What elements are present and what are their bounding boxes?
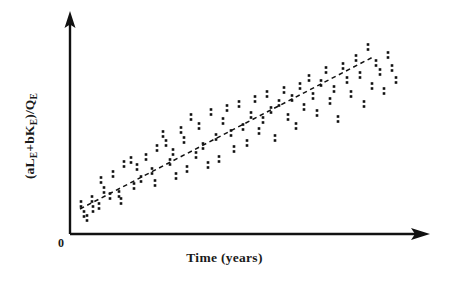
data-point-dot: [136, 163, 139, 166]
data-point-marker: [226, 104, 229, 112]
data-point-dot: [80, 200, 83, 203]
data-point-dot: [337, 120, 340, 123]
data-point-dot: [180, 131, 183, 134]
data-point-dot: [98, 202, 101, 205]
data-point-dot: [375, 59, 378, 62]
data-point-dot: [133, 187, 136, 190]
data-point-marker: [316, 109, 319, 117]
data-point-marker: [215, 133, 218, 141]
data-point-dot: [242, 123, 245, 126]
data-point-dot: [103, 186, 106, 189]
data-point-dot: [333, 90, 336, 93]
data-point-dot: [207, 161, 210, 164]
data-point-dot: [230, 129, 233, 132]
data-point-dot: [175, 177, 178, 180]
data-point-dot: [291, 94, 294, 97]
data-point-dot: [359, 71, 362, 74]
data-point-dot: [303, 103, 306, 106]
data-point-dot: [246, 144, 249, 147]
data-point-marker: [133, 182, 136, 190]
data-point-dot: [92, 210, 95, 213]
data-point-dot: [156, 144, 159, 147]
data-point-dot: [387, 56, 390, 59]
data-point-marker: [145, 153, 148, 161]
data-point-marker: [266, 90, 269, 98]
data-point-dot: [262, 121, 265, 124]
data-point-dot: [262, 116, 265, 119]
data-point-dot: [120, 197, 123, 200]
data-point-marker: [379, 68, 382, 76]
data-point-marker: [299, 82, 302, 90]
data-point-dot: [198, 127, 201, 130]
data-point-dot: [156, 149, 159, 152]
data-point-dot: [151, 172, 154, 175]
data-point-dot: [180, 126, 183, 129]
data-point-dot: [233, 150, 236, 153]
data-point-marker: [156, 144, 159, 152]
data-point-dot: [350, 95, 353, 98]
data-point-dot: [312, 97, 315, 100]
data-point-dot: [172, 153, 175, 156]
data-point-dot: [246, 139, 249, 142]
data-point-marker: [210, 108, 213, 116]
data-point-dot: [266, 95, 269, 98]
axes-group: [65, 11, 431, 240]
data-point-dot: [109, 192, 112, 195]
data-point-marker: [274, 134, 277, 142]
data-point-dot: [112, 175, 115, 178]
data-point-dot: [215, 138, 218, 141]
data-points-group: [80, 43, 398, 222]
data-point-dot: [98, 207, 101, 210]
data-point-dot: [337, 115, 340, 118]
data-point-dot: [316, 114, 319, 117]
data-point-dot: [395, 76, 398, 79]
data-point-marker: [308, 74, 311, 82]
data-point-marker: [154, 179, 157, 187]
data-point-marker: [355, 54, 358, 62]
data-point-dot: [80, 205, 83, 208]
data-point-dot: [91, 195, 94, 198]
data-point-dot: [299, 82, 302, 85]
data-point-dot: [278, 99, 281, 102]
data-point-dot: [165, 139, 168, 142]
data-point-marker: [258, 127, 261, 135]
data-point-dot: [109, 197, 112, 200]
data-point-dot: [346, 81, 349, 84]
data-point-dot: [162, 130, 165, 133]
y-label-sub-E3: E: [29, 93, 39, 100]
data-point-dot: [218, 155, 221, 158]
data-point-dot: [172, 148, 175, 151]
data-point-dot: [287, 118, 290, 121]
data-point-marker: [375, 59, 378, 67]
data-point-dot: [329, 102, 332, 105]
data-point-dot: [270, 106, 273, 109]
data-point-dot: [165, 144, 168, 147]
data-point-dot: [226, 109, 229, 112]
data-point-dot: [186, 165, 189, 168]
data-point-marker: [287, 113, 290, 121]
data-point-dot: [230, 134, 233, 137]
data-point-marker: [371, 82, 374, 90]
data-point-marker: [320, 79, 323, 87]
data-point-marker: [118, 190, 121, 198]
data-point-dot: [303, 108, 306, 111]
data-point-dot: [151, 167, 154, 170]
y-label-plus: +b: [22, 136, 37, 152]
data-point-dot: [190, 118, 193, 121]
data-point-dot: [123, 160, 126, 163]
data-point-dot: [391, 64, 394, 67]
data-point-dot: [346, 76, 349, 79]
data-point-marker: [198, 122, 201, 130]
data-point-dot: [316, 109, 319, 112]
data-point-dot: [266, 90, 269, 93]
data-point-dot: [363, 100, 366, 103]
data-point-dot: [222, 122, 225, 125]
data-point-dot: [359, 76, 362, 79]
y-label-var-K: K: [22, 125, 37, 136]
data-point-marker: [342, 62, 345, 70]
y-label-close-slash: )/Q: [22, 99, 37, 118]
data-point-marker: [123, 160, 126, 168]
data-point-dot: [379, 68, 382, 71]
data-point-marker: [262, 116, 265, 124]
data-point-dot: [350, 90, 353, 93]
